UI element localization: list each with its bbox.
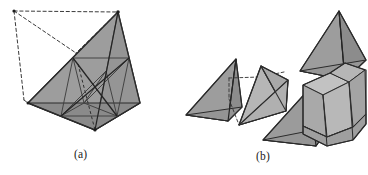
vertex-left-dot (27, 102, 30, 105)
vertex-wire-topleft-dot (12, 9, 15, 12)
panel-b-caption: (b) (256, 150, 270, 162)
figure-root: (a) (b) (0, 0, 368, 175)
vertex-front-dot (93, 128, 96, 131)
figure-illustration (0, 0, 368, 175)
panel-a-caption: (a) (74, 148, 87, 160)
vertex-apex-dot (116, 10, 120, 14)
